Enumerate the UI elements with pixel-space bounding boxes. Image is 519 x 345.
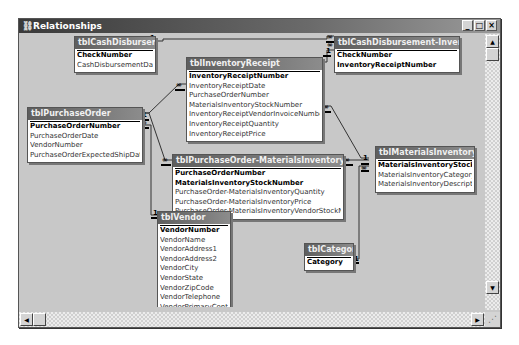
table-title[interactable]: tblMaterialsInventory xyxy=(376,147,474,159)
table-cash-disbursement-inventory-receipt[interactable]: tblCashDisbursement-InventoryRecei... Ch… xyxy=(334,36,460,73)
table-cash-disbursement[interactable]: tblCashDisbursement CheckNumber CashDisb… xyxy=(74,36,156,73)
table-title[interactable]: tblPurchaseOrder-MaterialsInventory xyxy=(173,155,343,167)
scroll-left-button[interactable]: ◀ xyxy=(20,313,33,326)
table-title[interactable]: tblCashDisbursement-InventoryRecei... xyxy=(335,37,459,49)
field-item[interactable]: InventoryReceiptQuantity xyxy=(189,120,320,130)
scroll-up-button[interactable]: ▲ xyxy=(486,35,499,48)
many-label: ∞ xyxy=(323,104,329,111)
field-item[interactable]: VendorAddress1 xyxy=(160,245,228,255)
field-item[interactable]: PurchaseOrder-MaterialsInventoryPrice xyxy=(175,198,341,208)
scroll-down-button[interactable]: ▼ xyxy=(486,281,499,294)
field-item[interactable]: MaterialsInventoryStockNumber xyxy=(189,101,320,111)
minimize-button[interactable]: _ xyxy=(462,20,473,31)
maximize-button[interactable]: □ xyxy=(474,20,485,31)
field-item[interactable]: CheckNumber xyxy=(77,51,153,61)
resize-grip-icon[interactable]: ⋰ xyxy=(485,312,500,327)
table-title[interactable]: tblPurchaseOrder xyxy=(28,108,142,120)
field-item[interactable]: Category xyxy=(307,258,351,268)
table-inventory-receipt[interactable]: tblInventoryReceipt InventoryReceiptNumb… xyxy=(186,57,323,142)
one-label: 1 xyxy=(326,48,331,55)
field-item[interactable]: PurchaseOrder-MaterialsInventoryQuantity xyxy=(175,188,341,198)
table-purchase-order[interactable]: tblPurchaseOrder PurchaseOrderNumber Pur… xyxy=(27,107,143,163)
arrow-left-icon: ◀ xyxy=(24,316,29,323)
relationships-window: ⛓ Relationships _ □ × xyxy=(18,18,501,328)
horizontal-scroll-thumb[interactable] xyxy=(33,313,46,326)
field-item[interactable]: PurchaseOrderExpectedShipDate xyxy=(30,151,140,161)
many-label: ∞ xyxy=(176,82,182,89)
field-item[interactable]: InventoryReceiptPrice xyxy=(189,130,320,140)
field-item[interactable]: VendorCity xyxy=(160,264,228,274)
close-button[interactable]: × xyxy=(486,20,497,31)
relationships-app-icon: ⛓ xyxy=(22,21,32,31)
horizontal-scrollbar[interactable]: ◀ ▶ xyxy=(19,312,485,327)
field-item[interactable]: VendorNumber xyxy=(30,141,140,151)
field-item[interactable]: CheckNumber xyxy=(337,51,457,61)
field-item[interactable]: VendorTelephone xyxy=(160,293,228,303)
rel-line-check xyxy=(154,36,334,41)
field-item[interactable]: InventoryReceiptNumber xyxy=(189,72,320,82)
field-item[interactable]: InventoryReceiptDate xyxy=(189,82,320,92)
field-item[interactable]: MaterialsInventoryStockNumber xyxy=(175,179,341,189)
field-item[interactable]: InventoryReceiptVendorInvoiceNumber xyxy=(189,110,320,120)
field-item[interactable]: VendorZipCode xyxy=(160,284,228,294)
vertical-scrollbar[interactable]: ▲ ▼ xyxy=(485,34,500,310)
table-vendor[interactable]: tblVendor VendorNumber VendorName Vendor… xyxy=(157,211,231,307)
arrow-right-icon: ▶ xyxy=(475,316,480,323)
field-item[interactable]: VendorNumber xyxy=(160,226,228,236)
field-item[interactable]: MaterialsInventoryStockNumber xyxy=(378,161,472,171)
arrow-up-icon: ▲ xyxy=(490,38,495,45)
many-label: ∞ xyxy=(162,157,168,164)
table-title[interactable]: tblInventoryReceipt xyxy=(187,58,322,70)
title-bar[interactable]: ⛓ Relationships _ □ × xyxy=(19,19,500,33)
field-item[interactable]: PurchaseOrderDate xyxy=(30,132,140,142)
window-title: Relationships xyxy=(33,19,102,33)
field-item[interactable]: PurchaseOrderNumber xyxy=(189,91,320,101)
scroll-right-button[interactable]: ▶ xyxy=(471,313,484,326)
field-item[interactable]: InventoryReceiptNumber xyxy=(337,61,457,71)
table-title[interactable]: tblVendor xyxy=(158,212,230,224)
field-item[interactable]: VendorPrimaryContact xyxy=(160,303,228,307)
relationships-canvas[interactable]: 1 ∞ ∞ 1 ∞ 1 ∞ ∞ ∞ ∞ 1 ∞ 1 1 tblCashDisbu… xyxy=(21,34,483,307)
table-materials-inventory[interactable]: tblMaterialsInventory MaterialsInventory… xyxy=(375,146,475,193)
vertical-scroll-thumb[interactable] xyxy=(486,48,499,61)
table-title[interactable]: tblCashDisbursement xyxy=(75,37,155,49)
table-category[interactable]: tblCategory Category xyxy=(304,243,354,271)
many-label: ∞ xyxy=(327,34,333,41)
table-title[interactable]: tblCategory xyxy=(305,244,353,256)
many-label: ∞ xyxy=(344,157,350,164)
field-item[interactable]: VendorName xyxy=(160,236,228,246)
field-item[interactable]: PurchaseOrderNumber xyxy=(30,122,140,132)
field-item[interactable]: VendorAddress2 xyxy=(160,255,228,265)
field-item[interactable]: MaterialsInventoryDescription xyxy=(378,180,472,190)
field-item[interactable]: MaterialsInventoryCategory xyxy=(378,171,472,181)
arrow-down-icon: ▼ xyxy=(490,284,495,291)
many-label: ∞ xyxy=(361,165,367,172)
one-label: 1 xyxy=(354,256,359,263)
field-item[interactable]: CashDisbursementDate xyxy=(77,61,153,71)
field-item[interactable]: VendorState xyxy=(160,274,228,284)
one-label: 1 xyxy=(363,155,368,162)
field-item[interactable]: PurchaseOrderNumber xyxy=(175,169,341,179)
